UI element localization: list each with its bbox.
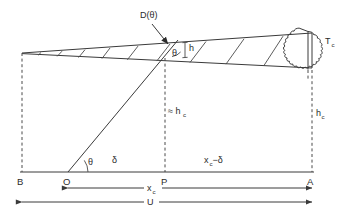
cone-beam <box>22 33 312 69</box>
cone-bottom-edge <box>22 54 312 68</box>
point-label-a: A <box>307 176 314 187</box>
cross-section-line <box>262 36 283 68</box>
cone-cross-sections <box>38 36 283 68</box>
approx-hc-label: ≈ h <box>168 106 180 116</box>
point-label-o: O <box>63 176 70 187</box>
theta-base-label: θ <box>88 157 93 167</box>
diagram-canvas: D(θ) h θ T c ≈ h c h c θ δ x c −δ B O P … <box>0 0 345 217</box>
u-dimension: U <box>22 197 312 207</box>
turbulent-blob-group <box>283 28 322 69</box>
point-label-p: P <box>161 176 167 187</box>
d-theta-label: D(θ) <box>140 10 158 20</box>
theta-cone-label: θ <box>172 48 177 58</box>
approx-hc-subscript: c <box>183 111 186 118</box>
figure-root: D(θ) h θ T c ≈ h c h c θ δ x c −δ B O P … <box>0 0 345 217</box>
xc-dim-subscript: c <box>153 188 156 195</box>
xc-dimension: x c <box>68 183 312 195</box>
point-label-b: B <box>17 176 23 187</box>
d-theta-leader-arrow <box>152 24 168 44</box>
u-dim-label: U <box>147 197 154 207</box>
h-label: h <box>189 43 194 53</box>
hc-label: h <box>316 108 321 118</box>
ray-o-to-cone <box>68 40 178 172</box>
hc-subscript: c <box>322 113 325 120</box>
turbulent-blob <box>283 28 322 68</box>
xc-minus-delta-tail: −δ <box>213 155 223 165</box>
tc-label: T <box>325 36 331 46</box>
tc-label-subscript: c <box>332 41 335 48</box>
cross-section-line <box>224 39 244 67</box>
xc-minus-delta-label: x <box>204 155 209 165</box>
delta-label: δ <box>112 155 117 165</box>
xc-dim-label: x <box>147 183 152 193</box>
h-dimension <box>182 42 187 57</box>
